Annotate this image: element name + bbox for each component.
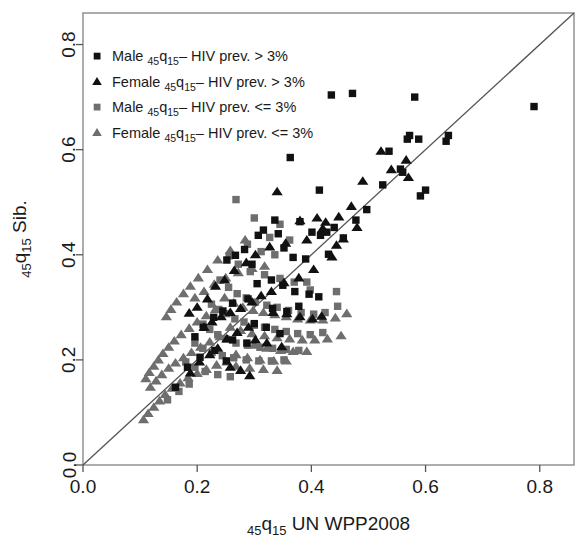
data-point-square — [233, 290, 240, 297]
data-point-square — [328, 91, 335, 98]
data-point-triangle — [171, 297, 182, 306]
legend-item-0[interactable]: Male 45q15– HIV prev. > 3% — [94, 48, 288, 67]
data-point-triangle — [308, 264, 319, 273]
data-point-square — [172, 384, 179, 391]
data-point-square — [331, 224, 338, 231]
data-point-triangle — [230, 350, 241, 359]
data-point-triangle — [161, 312, 172, 321]
data-point-triangle — [272, 365, 283, 374]
data-point-square — [241, 246, 248, 253]
legend-item-2[interactable]: Male 45q15– HIV prev. <= 3% — [94, 99, 297, 118]
y-axis-title: 45q15 Sib. — [9, 200, 34, 278]
data-point-square — [263, 324, 270, 331]
data-point-square — [268, 276, 275, 283]
legend-label: Male 45q15– HIV prev. <= 3% — [112, 99, 296, 118]
data-point-square — [260, 226, 267, 233]
data-point-square — [225, 284, 232, 291]
legend-label: Female 45q15– HIV prev. <= 3% — [112, 125, 313, 144]
legend-item-1[interactable]: Female 45q15– HIV prev. > 3% — [92, 74, 305, 93]
data-point-square — [319, 329, 326, 336]
y-tick-label: 0.2 — [59, 347, 80, 373]
data-point-square — [223, 357, 230, 364]
data-point-triangle — [178, 289, 189, 298]
data-point-square — [235, 261, 242, 268]
data-point-triangle — [264, 242, 275, 251]
legend-triangle-icon — [92, 128, 102, 136]
data-point-triangle — [202, 264, 213, 273]
data-point-triangle — [258, 364, 269, 373]
data-point-triangle — [189, 293, 200, 302]
data-point-triangle — [311, 213, 322, 222]
data-point-square — [295, 303, 302, 310]
x-tick-label: 0.6 — [412, 476, 438, 497]
data-point-square — [257, 248, 264, 255]
data-point-triangle — [248, 305, 259, 314]
data-point-square — [251, 320, 258, 327]
data-point-triangle — [386, 165, 397, 174]
data-point-square — [271, 216, 278, 223]
data-point-square — [445, 132, 452, 139]
data-point-square — [191, 333, 198, 340]
data-point-triangle — [338, 234, 349, 243]
data-point-triangle — [193, 273, 204, 282]
data-point-triangle — [401, 155, 412, 164]
data-point-square — [379, 181, 386, 188]
data-point-square — [232, 196, 239, 203]
data-point-square — [334, 303, 341, 310]
data-point-triangle — [261, 338, 272, 347]
data-point-triangle — [330, 313, 341, 322]
data-point-square — [302, 255, 309, 262]
data-point-square — [227, 373, 234, 380]
legend: Male 45q15– HIV prev. > 3%Female 45q15– … — [92, 48, 313, 144]
data-point-square — [307, 331, 314, 338]
data-point-square — [385, 148, 392, 155]
data-point-square — [287, 154, 294, 161]
data-point-triangle — [272, 187, 283, 196]
legend-triangle-icon — [92, 77, 102, 85]
x-tick-label: 0.4 — [298, 476, 325, 497]
data-point-triangle — [202, 294, 213, 303]
y-tick-label: 0.4 — [59, 241, 80, 268]
data-point-square — [191, 339, 198, 346]
data-point-square — [333, 288, 340, 295]
data-point-square — [305, 290, 312, 297]
data-point-triangle — [244, 371, 255, 380]
data-point-triangle — [335, 331, 346, 340]
data-point-triangle — [185, 281, 196, 290]
data-point-triangle — [212, 255, 223, 264]
data-point-triangle — [301, 346, 312, 355]
data-point-square — [271, 251, 278, 258]
data-point-triangle — [219, 293, 230, 302]
data-point-square — [363, 206, 370, 213]
data-point-square — [294, 330, 301, 337]
data-point-square — [243, 339, 250, 346]
data-point-square — [261, 271, 268, 278]
x-tick-label: 0.2 — [184, 476, 210, 497]
scatter-plot: 0.00.20.40.60.80.00.20.40.60.845q15 UN W… — [0, 0, 587, 546]
legend-label: Male 45q15– HIV prev. > 3% — [112, 48, 288, 67]
legend-item-3[interactable]: Female 45q15– HIV prev. <= 3% — [92, 125, 313, 144]
data-point-triangle — [186, 347, 197, 356]
data-point-square — [223, 256, 230, 263]
legend-label: Female 45q15– HIV prev. > 3% — [112, 74, 305, 93]
data-point-square — [406, 132, 413, 139]
data-point-triangle — [192, 302, 203, 311]
data-point-square — [291, 288, 298, 295]
data-point-square — [231, 315, 238, 322]
y-tick-label: 0.8 — [59, 31, 80, 57]
data-point-triangle — [256, 291, 267, 300]
chart-root: 0.00.20.40.60.80.00.20.40.60.845q15 UN W… — [0, 0, 587, 546]
data-point-triangle — [240, 235, 251, 244]
data-point-square — [232, 252, 239, 259]
data-point-square — [530, 103, 537, 110]
data-point-triangle — [357, 176, 368, 185]
data-point-triangle — [301, 235, 312, 244]
data-point-square — [185, 380, 192, 387]
data-point-triangle — [293, 273, 304, 282]
data-point-square — [411, 93, 418, 100]
data-point-triangle — [259, 331, 270, 340]
data-point-square — [308, 228, 315, 235]
data-point-triangle — [333, 212, 344, 221]
y-tick-label: 0.6 — [59, 136, 80, 162]
data-point-square — [276, 330, 283, 337]
